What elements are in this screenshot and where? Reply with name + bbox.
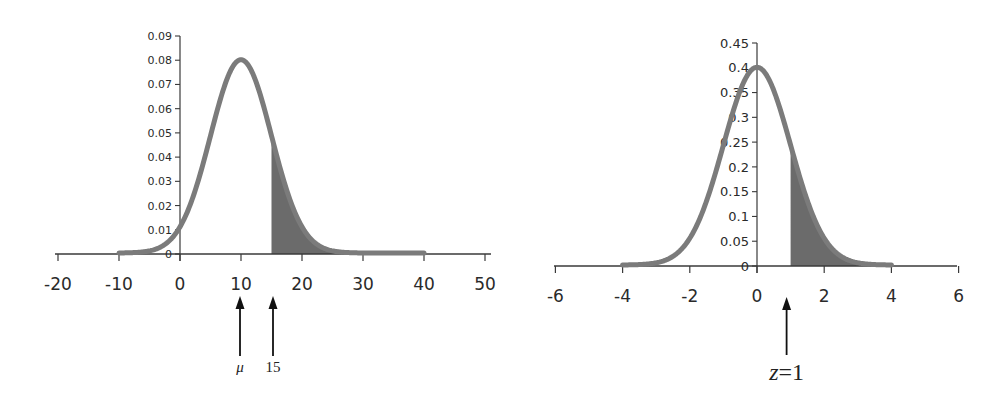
x-tick-label: -10 (105, 274, 133, 294)
annotation-label: 15 (266, 359, 281, 375)
y-tick-label: 0 (165, 248, 172, 261)
annotation-label: z=1 (768, 359, 804, 385)
x-tick-label: 30 (352, 274, 374, 294)
y-tick-label: 0.02 (148, 200, 173, 213)
x-tick-label: -6 (547, 286, 564, 306)
x-tick-label: 50 (474, 274, 496, 294)
x-tick-label: -2 (681, 286, 698, 306)
y-tick-label: 0.01 (148, 224, 173, 237)
y-tick-label: 0.05 (148, 127, 173, 140)
chart-standard-normal: -6-4-2024600.050.10.150.20.250.30.350.40… (547, 36, 964, 385)
y-tick-label: 0.15 (720, 184, 749, 199)
y-tick-label: 0.45 (720, 36, 749, 51)
y-tick-label: 0.05 (720, 234, 749, 249)
y-tick-label: 0.2 (728, 160, 749, 175)
arrow-up-icon (782, 297, 791, 310)
chart-normal-mu10: -20-100102030405000.010.020.030.040.050.… (44, 30, 496, 375)
y-tick-label: 0.04 (148, 151, 173, 164)
x-tick-label: 2 (819, 286, 830, 306)
figure: -20-100102030405000.010.020.030.040.050.… (0, 0, 994, 403)
x-tick-label: 4 (886, 286, 897, 306)
x-tick-label: 10 (230, 274, 252, 294)
x-tick-label: 20 (291, 274, 313, 294)
x-tick-label: 0 (752, 286, 763, 306)
y-tick-label: 0.08 (148, 54, 173, 67)
x-tick-label: 40 (413, 274, 435, 294)
shaded-tail-area (272, 137, 425, 254)
y-tick-label: 0.1 (728, 209, 749, 224)
arrow-up-icon (269, 296, 278, 309)
y-tick-label: 0.06 (148, 103, 173, 116)
y-tick-label: 0.35 (720, 85, 749, 100)
y-tick-label: 0.09 (148, 30, 173, 43)
x-tick-label: 6 (953, 286, 964, 306)
y-tick-label: 0 (741, 259, 749, 274)
x-tick-label: -4 (614, 286, 631, 306)
annotation-label: μ (235, 359, 244, 375)
y-tick-label: 0.03 (148, 175, 173, 188)
shaded-tail-area (791, 146, 892, 266)
x-tick-label: 0 (175, 274, 186, 294)
x-tick-label: -20 (44, 274, 72, 294)
normal-distribution-figure: -20-100102030405000.010.020.030.040.050.… (0, 0, 994, 403)
arrow-up-icon (236, 296, 245, 309)
y-tick-label: 0.07 (148, 78, 173, 91)
